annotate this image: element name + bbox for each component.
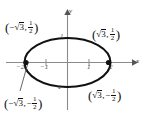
radicand: 3 bbox=[19, 22, 25, 32]
sqrt-icon: √3 bbox=[96, 29, 106, 39]
x-tick-label-neg2: −2 bbox=[16, 64, 24, 71]
point-label-bottom-right: (√3, −12) bbox=[88, 88, 121, 104]
paren-close: ) bbox=[38, 96, 42, 111]
fraction: 12 bbox=[111, 88, 117, 104]
x-tick-label-pos1: 1 bbox=[87, 64, 91, 71]
paren-close: ) bbox=[116, 27, 120, 42]
fraction: 12 bbox=[28, 20, 34, 36]
point-label-top-left: (−√3, 12) bbox=[5, 20, 38, 36]
fraction: 12 bbox=[32, 96, 38, 112]
sqrt-icon: √3 bbox=[13, 98, 23, 108]
y-axis-label: y bbox=[69, 8, 72, 15]
paren-close: ) bbox=[117, 88, 121, 103]
ellipse-figure: −2 −1 1 2 1 −1 x y (−√3, 12) (√3, 12) (−… bbox=[0, 0, 143, 119]
y-sign: − bbox=[105, 90, 110, 100]
x-tick-label-pos2: 2 bbox=[109, 64, 113, 71]
x-tick-label-neg1: −1 bbox=[40, 64, 48, 71]
y-sign: − bbox=[26, 98, 31, 108]
y-tick-label-pos1: 1 bbox=[60, 33, 64, 40]
x-axis-label: x bbox=[136, 58, 139, 65]
fraction: 12 bbox=[110, 27, 116, 43]
point-label-bottom-left: (−√3, −12) bbox=[4, 96, 42, 112]
radicand: 3 bbox=[101, 29, 107, 39]
y-tick-label-neg1: −1 bbox=[53, 84, 61, 91]
point-label-top-right: (√3, 12) bbox=[92, 27, 120, 43]
sqrt-icon: √3 bbox=[92, 90, 102, 100]
paren-close: ) bbox=[34, 20, 38, 35]
sqrt-icon: √3 bbox=[14, 22, 24, 32]
radicand: 3 bbox=[97, 90, 103, 100]
radicand: 3 bbox=[18, 98, 24, 108]
